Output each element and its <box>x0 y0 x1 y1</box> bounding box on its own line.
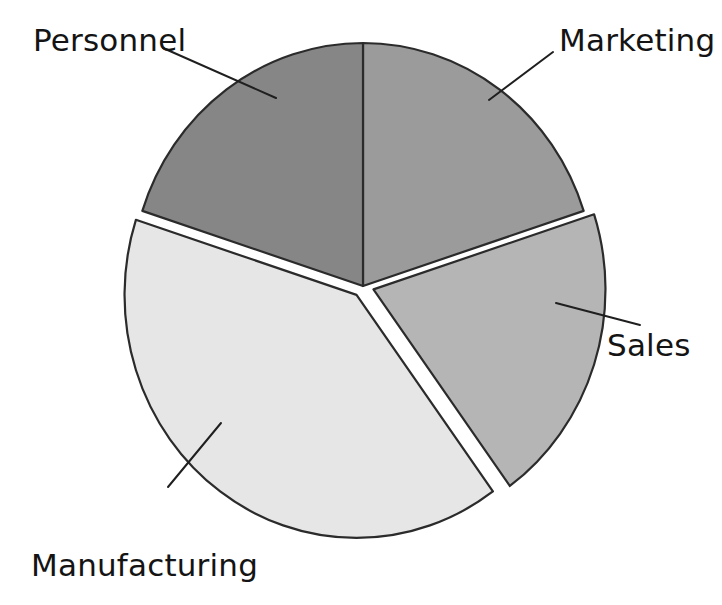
pie-slice-label-personnel: Personnel <box>33 25 186 56</box>
leader-line-marketing <box>489 52 553 100</box>
pie-chart-svg <box>0 0 722 605</box>
pie-slice-label-sales: Sales <box>607 330 691 361</box>
pie-slices-group <box>125 43 606 538</box>
pie-slice-label-manufacturing: Manufacturing <box>31 550 258 581</box>
pie-slice-label-marketing: Marketing <box>559 25 715 56</box>
pie-chart-figure: Personnel Marketing Sales Manufacturing <box>0 0 722 605</box>
